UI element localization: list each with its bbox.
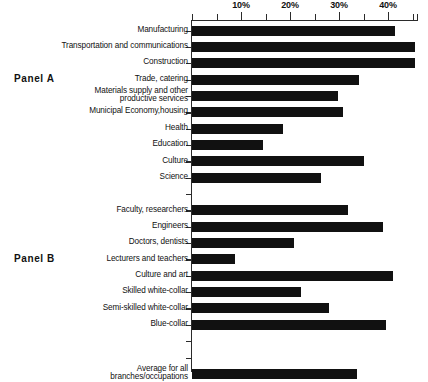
x-tick-5	[217, 14, 218, 20]
x-tick-45	[413, 14, 414, 20]
y-tick-20	[186, 358, 192, 359]
x-tick-15	[266, 14, 267, 20]
bar-materials-supply-and-other-productive-services	[192, 91, 338, 101]
bar-municipal-economy-housing	[192, 107, 343, 117]
category-label-skilled-white-collar: Skilled white-collar	[122, 287, 188, 296]
category-label-materials-supply-and-other-productive-services: Materials supply and other productive se…	[95, 87, 188, 104]
y-tick-19	[186, 341, 192, 342]
category-label-education: Education	[152, 140, 188, 149]
bar-average-for-all-branches-occupations	[192, 369, 357, 379]
x-axis-end-cap	[417, 14, 418, 21]
category-label-municipal-economy-housing: Municipal Economy,housing	[89, 107, 188, 116]
bar-culture-and-art	[192, 271, 393, 281]
y-tick-10	[186, 194, 192, 195]
x-tick-10	[241, 12, 242, 20]
x-tick-0	[192, 14, 193, 20]
category-label-construction: Construction	[143, 58, 188, 67]
category-label-average-for-all-branches-occupations: Average for all branches/occupations	[110, 365, 188, 382]
panel-b-title: Panel B	[14, 253, 55, 264]
bar-blue-collar	[192, 320, 386, 330]
category-label-blue-collar: Blue-collar	[150, 320, 188, 329]
bar-trade-catering	[192, 75, 359, 85]
x-tick-label-30: 30%	[330, 0, 347, 10]
category-label-trade-catering: Trade, catering	[135, 75, 188, 84]
bar-health	[192, 124, 283, 134]
x-tick-25	[315, 14, 316, 20]
category-label-culture: Culture	[162, 157, 188, 166]
category-label-lecturers-and-teachers: Lecturers and teachers	[106, 255, 188, 264]
x-tick-label-10: 10%	[232, 0, 249, 10]
panel-a-title: Panel A	[14, 73, 55, 84]
category-label-culture-and-art: Culture and art	[135, 271, 188, 280]
category-label-health: Health	[165, 124, 188, 133]
category-label-manufacturing: Manufacturing	[137, 26, 188, 35]
bar-education	[192, 140, 263, 150]
x-tick-label-40: 40%	[379, 0, 396, 10]
bar-manufacturing	[192, 26, 395, 36]
bar-culture	[192, 156, 364, 166]
category-label-faculty-researchers: Faculty, researchers	[116, 206, 188, 215]
bar-skilled-white-collar	[192, 287, 301, 297]
x-tick-20	[290, 12, 291, 20]
bar-construction	[192, 58, 415, 68]
x-tick-40	[388, 12, 389, 20]
bar-faculty-researchers	[192, 205, 348, 215]
x-axis-line	[191, 20, 418, 21]
x-tick-label-20: 20%	[281, 0, 298, 10]
bar-semi-skilled-white-collar	[192, 303, 329, 313]
bar-doctors-dentists	[192, 238, 294, 248]
category-label-engineers: Engineers	[152, 222, 188, 231]
category-label-semi-skilled-white-collar: Semi-skilled white-collar	[103, 304, 188, 313]
category-label-transportation-and-communications: Transportation and communications	[61, 42, 188, 51]
category-label-doctors-dentists: Doctors, dentists	[129, 238, 188, 247]
category-label-science: Science	[160, 173, 188, 182]
bar-science	[192, 173, 321, 183]
bar-engineers	[192, 222, 383, 232]
x-tick-35	[364, 14, 365, 20]
bar-lecturers-and-teachers	[192, 254, 235, 264]
x-tick-30	[339, 12, 340, 20]
bar-transportation-and-communications	[192, 42, 415, 52]
